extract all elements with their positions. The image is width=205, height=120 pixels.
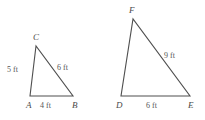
vertex-label-c: C xyxy=(33,32,40,42)
triangle-def xyxy=(121,19,190,96)
triangle-def-outline xyxy=(121,19,190,96)
vertex-label-d: D xyxy=(115,100,123,110)
measure-label-ab: 4 ft xyxy=(40,101,52,110)
measure-label-fe: 9 ft xyxy=(164,51,176,60)
measure-label-de: 6 ft xyxy=(146,101,158,110)
vertex-label-f: F xyxy=(128,5,135,15)
geometry-figure: A B C 5 ft 6 ft 4 ft D E F 9 ft 6 ft xyxy=(0,0,205,120)
measure-label-cb: 6 ft xyxy=(57,63,69,72)
vertex-label-b: B xyxy=(72,100,78,110)
vertex-label-e: E xyxy=(187,100,194,110)
vertex-label-a: A xyxy=(25,100,32,110)
measure-label-ac: 5 ft xyxy=(7,65,19,74)
figure-canvas: A B C 5 ft 6 ft 4 ft D E F 9 ft 6 ft xyxy=(0,0,205,120)
